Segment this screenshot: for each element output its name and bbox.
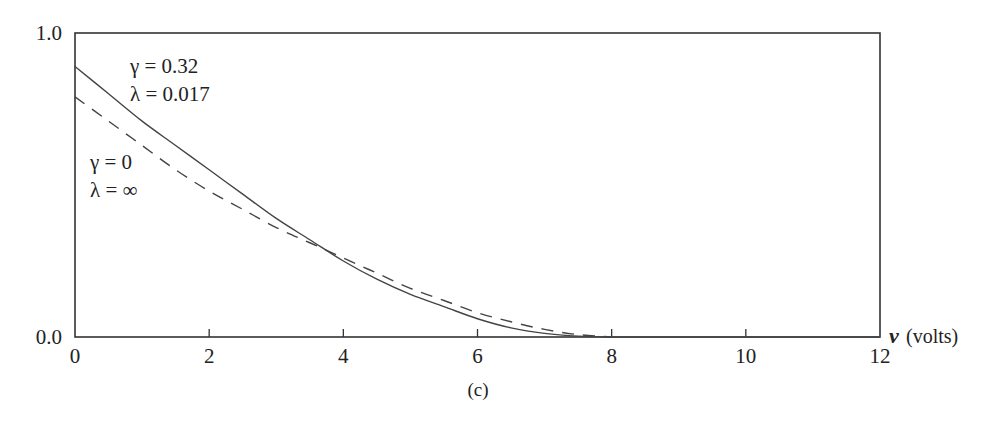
solid-curve-annotation-lambda: λ = 0.017 [130, 82, 210, 106]
dashed-curve-annotation-gamma: γ = 0 [89, 150, 132, 174]
chart-figure: 1.0 0.0 024681012 v (volts) γ = 0.32 λ =… [0, 0, 998, 427]
plot-border [75, 33, 880, 337]
x-axis-variable: v [889, 323, 899, 348]
x-axis-ticks [209, 329, 746, 337]
y-tick-label-bottom: 0.0 [36, 325, 62, 349]
x-tick-label: 12 [870, 344, 891, 368]
x-tick-label: 8 [606, 344, 617, 368]
x-tick-label: 0 [70, 344, 81, 368]
x-tick-label: 4 [338, 344, 349, 368]
plot-frame [75, 33, 880, 337]
x-tick-label: 2 [204, 344, 215, 368]
dashed-curve-annotation-lambda: λ = ∞ [90, 178, 138, 202]
y-tick-label-top: 1.0 [36, 21, 62, 45]
x-tick-label: 6 [472, 344, 483, 368]
curves [75, 66, 880, 337]
dashed-curve [75, 97, 612, 337]
x-tick-label: 10 [735, 344, 756, 368]
solid-curve [75, 66, 880, 337]
x-tick-labels: 024681012 [70, 344, 891, 368]
solid-curve-annotation-gamma: γ = 0.32 [129, 54, 198, 78]
figure-caption: (c) [467, 379, 488, 401]
x-axis-unit: (volts) [906, 325, 958, 348]
